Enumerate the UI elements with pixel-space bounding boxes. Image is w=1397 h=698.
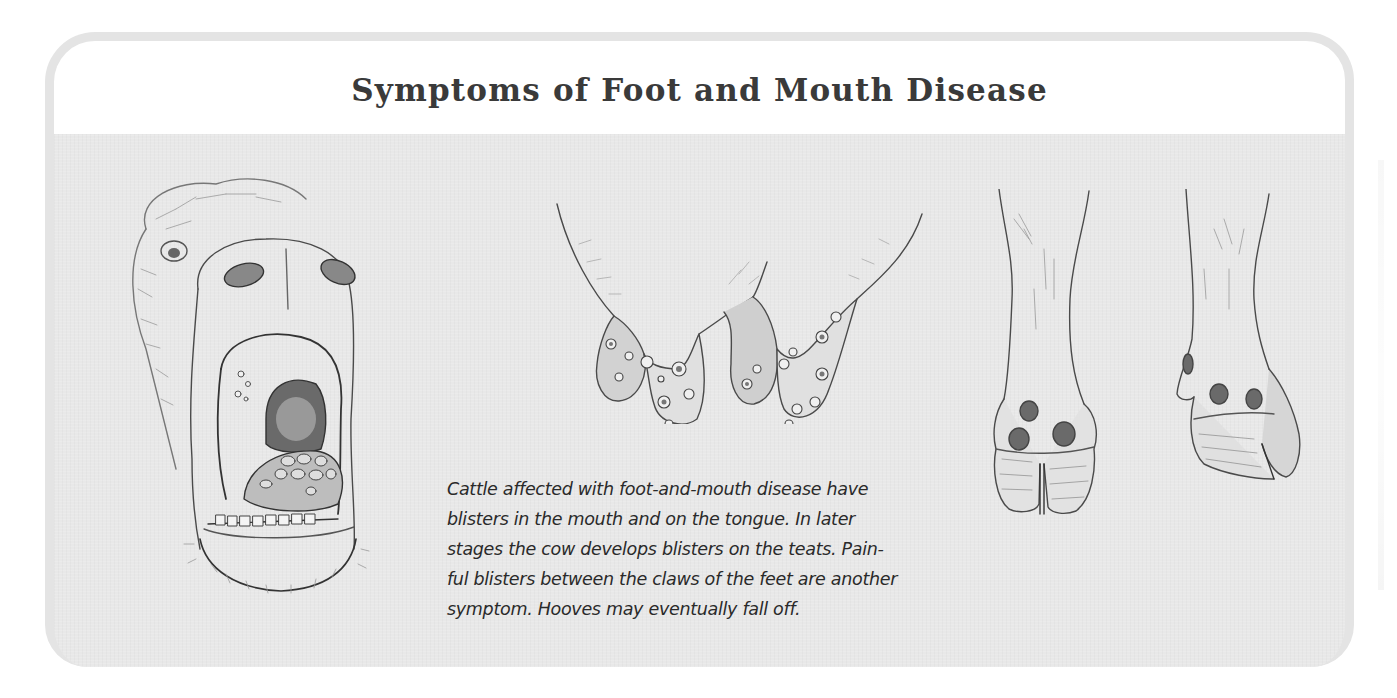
figure-frame: Symptoms of Foot and Mouth Disease — [45, 32, 1354, 667]
figure-header: Symptoms of Foot and Mouth Disease — [54, 41, 1345, 134]
hoof-front-illustration — [984, 189, 1134, 529]
udder-illustration — [539, 184, 939, 424]
figure-body: Cattle affected with foot-and-mouth dise… — [54, 134, 1345, 667]
scan-bleed-through — [1378, 160, 1384, 590]
hoof-side-illustration — [1174, 189, 1314, 489]
figure-caption: Cattle affected with foot-and-mouth dise… — [447, 474, 967, 624]
caption-line: stages the cow develops blisters on the … — [447, 534, 967, 564]
caption-line: Cattle affected with foot-and-mouth dise… — [447, 474, 967, 504]
caption-line: ful blisters between the claws of the fe… — [447, 564, 967, 594]
caption-line: blisters in the mouth and on the tongue.… — [447, 504, 967, 534]
caption-line: symptom. Hooves may eventually fall off. — [447, 594, 967, 624]
figure-title: Symptoms of Foot and Mouth Disease — [351, 72, 1048, 108]
cow-mouth-illustration — [116, 169, 386, 624]
